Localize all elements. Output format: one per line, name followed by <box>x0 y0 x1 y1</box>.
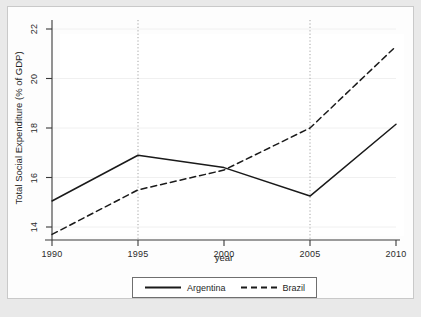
y-axis-title: Total Social Expenditure (% of GDP) <box>13 51 24 204</box>
legend-entry-argentina[interactable]: Argentina <box>144 283 226 293</box>
plot-region <box>60 34 404 236</box>
legend-entry-brazil[interactable]: Brazil <box>240 283 306 293</box>
x-axis-title: year <box>215 252 233 263</box>
chart-canvas <box>7 6 414 299</box>
y-tick-label-18: 18 <box>29 123 39 133</box>
x-tick-label-2005: 2005 <box>300 249 321 259</box>
y-tick-label-20: 20 <box>29 73 39 83</box>
chart-figure: 22 20 18 16 14 1990 1995 2000 2005 2010 … <box>0 0 421 317</box>
chart-legend: Argentina Brazil <box>132 277 317 298</box>
x-tick-label-1990: 1990 <box>42 249 63 259</box>
legend-label-argentina: Argentina <box>187 283 226 293</box>
legend-key-solid-line <box>144 283 182 292</box>
y-tick-label-22: 22 <box>29 24 39 34</box>
y-tick-label-16: 16 <box>29 172 39 182</box>
legend-key-dashed-line <box>240 283 278 292</box>
legend-label-brazil: Brazil <box>283 283 306 293</box>
y-tick-label-14: 14 <box>29 222 39 232</box>
x-tick-label-2010: 2010 <box>386 249 407 259</box>
x-tick-label-1995: 1995 <box>128 249 149 259</box>
